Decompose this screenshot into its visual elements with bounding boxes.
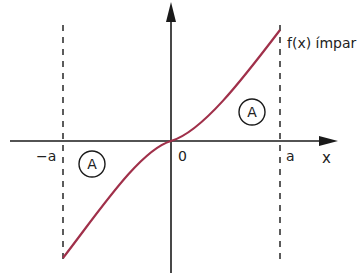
region-right-label: A bbox=[247, 104, 257, 120]
function-label: f(x) ímpar bbox=[287, 35, 357, 51]
neg-a-label: −a bbox=[36, 148, 56, 164]
pos-a-label: a bbox=[286, 148, 295, 164]
x-axis-arrow-icon bbox=[319, 136, 338, 146]
region-left-label: A bbox=[87, 156, 97, 172]
odd-function-diagram: A A f(x) ímpar 0 −a a x bbox=[0, 0, 359, 273]
y-axis-arrow-icon bbox=[166, 2, 176, 22]
x-axis-label: x bbox=[322, 149, 331, 167]
origin-label: 0 bbox=[178, 148, 187, 164]
